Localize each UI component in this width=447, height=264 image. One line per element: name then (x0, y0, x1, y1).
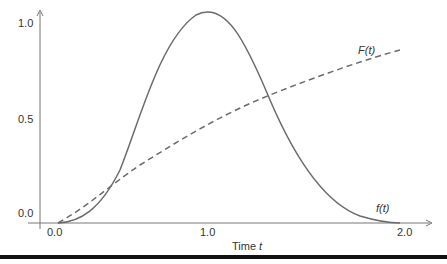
y-tick-1: 1.0 (18, 17, 33, 29)
y-tick-05: 0.5 (18, 113, 33, 125)
f-curve (58, 12, 400, 223)
x-tick-2: 2.0 (397, 226, 412, 238)
chart-plot (0, 0, 447, 264)
bottom-rule (0, 255, 447, 259)
F-label: F(t) (358, 44, 375, 56)
x-tick-1: 1.0 (200, 226, 215, 238)
f-label: f(t) (376, 202, 389, 214)
y-tick-0: 0.0 (18, 207, 33, 219)
x-axis-label: Time t (232, 240, 262, 252)
F-curve-dashed (58, 50, 400, 223)
x-tick-0: 0.0 (47, 226, 62, 238)
